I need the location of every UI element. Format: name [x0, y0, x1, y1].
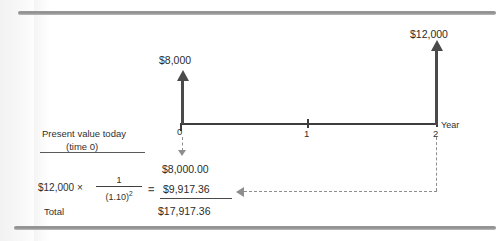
axis-tick-label-year-0: 0: [177, 126, 182, 137]
axis-tick-label-year-1: 1: [304, 128, 309, 139]
present-value-caption-underline: [40, 152, 145, 153]
pv-amount-year-2: $9,917.36: [163, 183, 210, 195]
multiplication-symbol: ×: [77, 182, 83, 193]
fraction-numerator: 1: [96, 175, 142, 185]
cash-flow-label-year-0: $8,000: [159, 54, 191, 66]
axis-caption-year: Year: [441, 120, 459, 130]
equals-symbol: =: [148, 183, 154, 195]
page-curl-shadow: [34, 0, 50, 241]
cash-flow-label-year-2: $12,000: [410, 28, 448, 40]
bottom-rule-divider: [14, 226, 496, 230]
dashed-connector-year-2-horizontal: [244, 191, 437, 192]
fraction-denominator: (1.10)2: [96, 188, 142, 203]
dashed-arrow-head-left-icon: [236, 187, 244, 197]
dashed-connector-year-2-vertical: [436, 137, 437, 191]
top-rule-divider: [18, 11, 496, 15]
discount-expression-principal: $12,000 ×: [38, 182, 83, 193]
denominator-base: (1.10): [105, 192, 129, 202]
present-value-caption-line-1: Present value today: [42, 128, 126, 139]
total-separator-rule: [160, 198, 232, 199]
dashed-connector-year-0: [182, 137, 183, 151]
arrow-shaft: [435, 50, 438, 125]
axis-tick-year-1: [307, 119, 309, 128]
present-value-caption-line-2: (time 0): [66, 141, 98, 152]
figure-canvas: 0 1 2 Year $8,000 $12,000 Present value …: [0, 0, 496, 241]
pv-amount-year-0: $8,000.00: [162, 163, 209, 175]
timeline-axis: [181, 123, 437, 125]
total-amount: $17,917.36: [158, 205, 211, 217]
total-label: Total: [44, 206, 64, 217]
denominator-exponent: 2: [129, 190, 133, 197]
discount-factor-fraction: 1 (1.10)2: [96, 175, 142, 203]
principal-amount: $12,000: [38, 182, 74, 193]
dashed-arrow-head-down-icon: [178, 150, 186, 156]
arrow-shaft: [181, 80, 184, 124]
fraction-bar: [96, 186, 142, 187]
